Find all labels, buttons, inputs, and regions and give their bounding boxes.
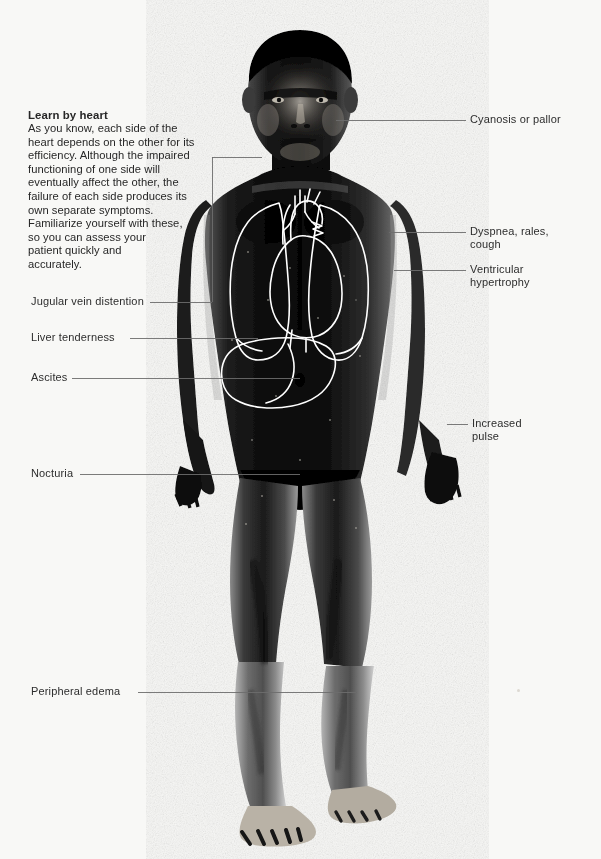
print-speck xyxy=(517,689,520,692)
caption-body: As you know, each side of the heart depe… xyxy=(28,122,206,272)
callout-ventricular-hypertrophy: Ventricular hypertrophy xyxy=(470,263,530,288)
callout-jugular-vein-distention: Jugular vein distention xyxy=(31,295,144,308)
diagram-page: Learn by heart As you know, each side of… xyxy=(0,0,601,859)
callout-increased-pulse: Increased pulse xyxy=(472,417,522,442)
callout-liver-tenderness: Liver tenderness xyxy=(31,331,115,344)
callout-dyspnea-rales-cough: Dyspnea, rales, cough xyxy=(470,225,549,250)
callout-nocturia: Nocturia xyxy=(31,467,73,480)
callout-peripheral-edema: Peripheral edema xyxy=(31,685,120,698)
callout-cyanosis-or-pallor: Cyanosis or pallor xyxy=(470,113,561,126)
callout-ascites: Ascites xyxy=(31,371,68,384)
caption-title: Learn by heart xyxy=(28,108,206,122)
caption-block: Learn by heart As you know, each side of… xyxy=(28,108,206,272)
